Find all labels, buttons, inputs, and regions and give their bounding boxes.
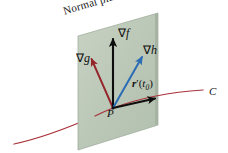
normal-plane-diagram — [0, 0, 228, 153]
tangent-vector-label: r′(t0) — [132, 78, 153, 92]
gradient-g-label: ∇g — [76, 52, 90, 64]
gradient-f-label: ∇f — [118, 27, 129, 39]
point-p-label: P — [107, 108, 114, 119]
gradient-h-label: ∇h — [143, 44, 157, 56]
curve-c-label: C — [209, 86, 216, 97]
normal-plane-edge-shade — [155, 13, 158, 125]
figure-container: Normal plane ∇f ∇h ∇g r′(t0) P C — [0, 0, 228, 153]
